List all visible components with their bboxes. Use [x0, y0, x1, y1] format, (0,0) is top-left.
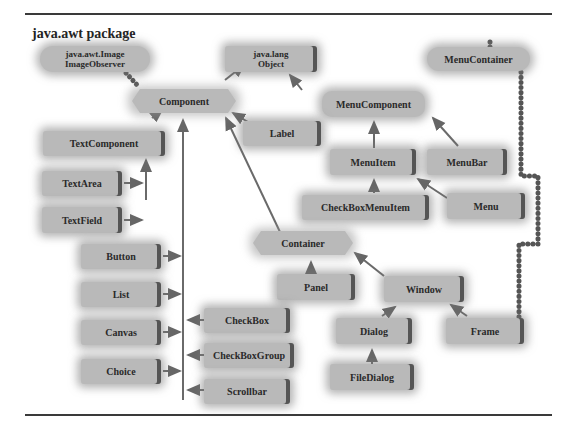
- node-menu-container: MenuContainer: [427, 47, 530, 71]
- node-checkbox-group: CheckBoxGroup: [204, 343, 294, 368]
- node-object: java.lang Object: [225, 46, 317, 72]
- node-dialog: Dialog: [336, 318, 412, 344]
- node-component: Component: [132, 89, 236, 113]
- node-frame: Frame: [446, 318, 524, 344]
- dotted-menucontainer-link: [490, 42, 538, 318]
- node-file-dialog: FileDialog: [330, 364, 414, 390]
- arrow-window-container: [355, 253, 384, 276]
- node-image-observer: java.awt.Image ImageObserver: [40, 46, 150, 72]
- node-scrollbar: Scrollbar: [204, 379, 290, 404]
- node-panel: Panel: [277, 274, 355, 300]
- node-button: Button: [81, 244, 161, 269]
- node-canvas: Canvas: [81, 320, 161, 345]
- node-menu-component: MenuComponent: [322, 91, 425, 117]
- node-menu-bar: MenuBar: [427, 149, 507, 175]
- node-text-field: TextField: [42, 207, 122, 233]
- node-list: List: [81, 282, 161, 307]
- node-label: Label: [243, 121, 321, 146]
- arrow-menucomponent-object: [290, 75, 302, 90]
- node-menu-item: MenuItem: [330, 149, 416, 175]
- dotted-component-imageobserver: [126, 73, 139, 87]
- arrow-frame-window: [451, 305, 467, 316]
- arrow-dialog-window: [382, 307, 395, 316]
- node-checkbox: CheckBox: [204, 308, 290, 333]
- node-checkbox-menu-item: CheckBoxMenuItem: [302, 195, 429, 220]
- arrow-menubar-menucomponent: [433, 118, 458, 146]
- node-container: Container: [253, 231, 353, 255]
- node-window: Window: [384, 276, 464, 302]
- node-menu: Menu: [447, 193, 525, 219]
- node-text-component: TextComponent: [43, 131, 165, 156]
- node-text-area: TextArea: [42, 171, 122, 196]
- node-choice: Choice: [81, 359, 161, 384]
